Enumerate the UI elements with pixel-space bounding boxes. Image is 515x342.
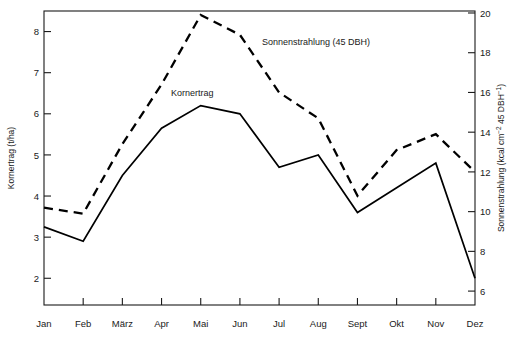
x-category-label-jul: Jul (273, 318, 285, 329)
left-axis-title: Kornertrag (t/ha) (6, 127, 16, 190)
left-tick-label: 3 (34, 232, 39, 243)
x-category-label-feb: Feb (75, 318, 91, 329)
right-tick-label: 12 (480, 167, 491, 178)
left-tick-label: 5 (34, 150, 39, 161)
climate-yield-line-chart: 2345678 68101214161820 JanFebMärzAprMaiJ… (0, 0, 515, 342)
x-category-label-märz: März (112, 318, 133, 329)
left-tick-label: 6 (34, 108, 39, 119)
right-tick-label: 10 (480, 206, 491, 217)
right-axis-title-mid: 45 DBH (496, 94, 506, 126)
left-tick-label: 4 (34, 191, 39, 202)
x-category-label-jun: Jun (232, 318, 247, 329)
left-tick-label: 2 (34, 273, 39, 284)
chart-container: 2345678 68101214161820 JanFebMärzAprMaiJ… (0, 0, 515, 342)
x-category-label-apr: Apr (154, 318, 169, 329)
left-tick-label: 8 (34, 26, 39, 37)
x-category-label-sept: Sept (348, 318, 368, 329)
left-tick-label: 7 (34, 67, 39, 78)
right-tick-label: 16 (480, 87, 491, 98)
right-axis-title-prefix: Sonnenstrahlung (kcal cm (496, 134, 506, 232)
right-tick-label: 6 (480, 286, 485, 297)
series-annotation-sonnenstrahlung: Sonnenstrahlung (45 DBH) (262, 37, 370, 47)
right-tick-label: 8 (480, 246, 485, 257)
series-annotation-kornertrag: Kornertrag (171, 88, 214, 98)
right-tick-label: 20 (480, 8, 491, 19)
x-category-label-nov: Nov (427, 318, 444, 329)
x-category-label-dez: Dez (467, 318, 484, 329)
x-category-label-mai: Mai (193, 318, 208, 329)
right-tick-label: 18 (480, 47, 491, 58)
right-axis-title: Sonnenstrahlung (kcal cm−2 45 DBH−1) (495, 84, 507, 232)
right-tick-label: 14 (480, 127, 491, 138)
right-axis-title-suffix: ) (496, 84, 506, 87)
x-category-label-jan: Jan (36, 318, 51, 329)
x-category-label-aug: Aug (310, 318, 327, 329)
x-category-label-okt: Okt (389, 318, 404, 329)
